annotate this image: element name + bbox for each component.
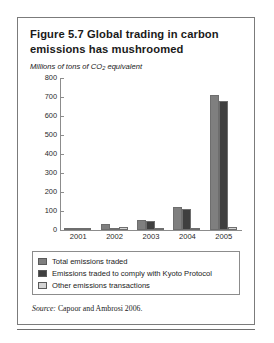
y-axis-tick-label: 300 xyxy=(45,168,57,177)
y-axis-tick-label: 800 xyxy=(45,73,57,82)
y-axis-tick-label: 200 xyxy=(45,187,57,196)
bar-group-bars xyxy=(173,78,200,230)
bar-group-bars xyxy=(64,78,91,230)
y-axis-unit-note: Millions of tons of CO2 equivalent xyxy=(30,62,142,71)
bar xyxy=(219,101,228,230)
bar xyxy=(146,221,155,230)
y-axis-tick-label: 0 xyxy=(53,225,57,234)
legend-label: Other emissions transactions xyxy=(52,281,150,290)
source-label: Source: xyxy=(32,304,56,313)
legend-swatch xyxy=(38,270,47,277)
bar xyxy=(119,227,128,230)
bar xyxy=(155,228,164,230)
y-axis-tick-label: 100 xyxy=(45,206,57,215)
bar-chart-plot-area: 0100200300400500600700800 20012002200320… xyxy=(30,74,244,246)
legend-swatch xyxy=(38,282,47,289)
bar xyxy=(110,228,119,230)
legend-item: Emissions traded to comply with Kyoto Pr… xyxy=(38,267,235,279)
legend-item: Other emissions transactions xyxy=(38,279,235,291)
x-axis-tick-label: 2001 xyxy=(58,232,98,241)
y-axis-tick-label: 700 xyxy=(45,92,57,101)
bar-group-bars xyxy=(210,78,237,230)
legend-label: Emissions traded to comply with Kyoto Pr… xyxy=(52,269,212,278)
x-axis-line xyxy=(60,230,242,231)
y-axis-tick-label: 500 xyxy=(45,130,57,139)
bar xyxy=(82,228,91,230)
bar xyxy=(64,228,73,230)
chart-legend: Total emissions tradedEmissions traded t… xyxy=(32,251,240,295)
bottom-rule xyxy=(17,329,255,330)
y-axis-unit-prefix: Millions of tons of CO xyxy=(30,62,102,71)
bar xyxy=(182,209,191,230)
x-axis-tick-label: 2005 xyxy=(204,232,244,241)
bar xyxy=(210,95,219,230)
y-axis-tick-label: 400 xyxy=(45,149,57,158)
y-axis-tick-label: 600 xyxy=(45,111,57,120)
legend-label: Total emissions traded xyxy=(52,257,128,266)
figure-title: Figure 5.7 Global trading in carbon emis… xyxy=(30,27,242,56)
bar-group-bars xyxy=(101,78,128,230)
x-axis-tick-label: 2003 xyxy=(131,232,171,241)
x-axis-tick-label: 2004 xyxy=(167,232,207,241)
x-axis-tick-label: 2002 xyxy=(95,232,135,241)
y-axis-unit-suffix: equivalent xyxy=(105,62,142,71)
source-note: Source: Capoor and Ambrosi 2006. xyxy=(32,304,142,313)
bar xyxy=(101,224,110,230)
bar xyxy=(137,220,146,230)
y-axis-tick-mark xyxy=(60,230,64,231)
bar xyxy=(228,227,237,230)
bar xyxy=(73,228,82,230)
source-citation: Capoor and Ambrosi 2006. xyxy=(56,304,142,313)
bar-group-bars xyxy=(137,78,164,230)
bar xyxy=(173,207,182,230)
legend-item: Total emissions traded xyxy=(38,255,235,267)
legend-swatch xyxy=(38,258,47,265)
bar xyxy=(191,228,200,230)
figure-card: Figure 5.7 Global trading in carbon emis… xyxy=(17,17,255,325)
